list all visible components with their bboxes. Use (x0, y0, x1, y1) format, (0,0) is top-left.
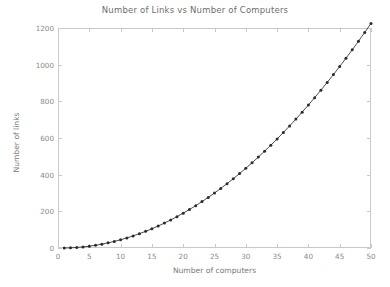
data-point-marker (138, 232, 141, 235)
data-point-marker (344, 57, 347, 60)
x-tick-label: 0 (43, 252, 73, 261)
x-axis-title: Number of computers (58, 266, 371, 275)
data-point-marker (219, 187, 222, 190)
x-tick-label: 50 (356, 252, 386, 261)
data-point-marker (213, 192, 216, 195)
y-tick-label: 1000 (20, 60, 54, 69)
x-tick-label: 30 (231, 252, 261, 261)
data-point-marker (357, 40, 360, 43)
data-point-marker (107, 241, 110, 244)
data-point-marker (132, 234, 135, 237)
y-axis-title: Number of links (12, 83, 21, 203)
data-point-marker (351, 48, 354, 51)
series-plot-area (58, 28, 371, 248)
x-tick-mark (371, 244, 372, 248)
data-point-marker (125, 236, 128, 239)
data-point-marker (370, 22, 373, 25)
data-point-marker (363, 31, 366, 34)
data-point-marker (294, 118, 297, 121)
data-point-marker (88, 245, 91, 248)
y-tick-mark-right (367, 248, 371, 249)
data-point-marker (150, 227, 153, 230)
data-point-marker (169, 218, 172, 221)
x-tick-label: 25 (200, 252, 230, 261)
data-point-marker (263, 150, 266, 153)
y-tick-label: 600 (20, 134, 54, 143)
data-point-marker (200, 200, 203, 203)
y-tick-label: 400 (20, 170, 54, 179)
data-point-marker (157, 225, 160, 228)
x-tick-label: 15 (137, 252, 167, 261)
data-point-marker (163, 222, 166, 225)
chart-title: Number of Links vs Number of Computers (0, 5, 390, 15)
data-point-marker (182, 212, 185, 215)
data-point-marker (144, 230, 147, 233)
data-point-marker (282, 131, 285, 134)
data-point-marker (113, 240, 116, 243)
y-tick-mark (58, 248, 62, 249)
series-line (64, 23, 371, 248)
data-point-marker (194, 204, 197, 207)
data-point-marker (319, 89, 322, 92)
x-tick-label: 20 (168, 252, 198, 261)
data-point-marker (301, 111, 304, 114)
data-point-marker (307, 104, 310, 107)
data-point-marker (207, 196, 210, 199)
data-point-marker (276, 137, 279, 140)
y-axis-tick-labels: 020040060080010001200 (0, 0, 54, 287)
data-point-marker (100, 243, 103, 246)
y-tick-label: 1200 (20, 24, 54, 33)
data-point-marker (226, 182, 229, 185)
data-point-marker (82, 245, 85, 248)
data-point-marker (63, 247, 66, 250)
data-point-marker (75, 246, 78, 249)
x-tick-label: 40 (293, 252, 323, 261)
x-tick-label: 45 (325, 252, 355, 261)
data-point-marker (232, 177, 235, 180)
data-point-marker (175, 215, 178, 218)
x-tick-label: 10 (106, 252, 136, 261)
data-point-marker (238, 172, 241, 175)
y-tick-label: 800 (20, 97, 54, 106)
data-point-marker (288, 124, 291, 127)
data-point-marker (338, 65, 341, 68)
data-point-marker (326, 81, 329, 84)
data-point-marker (244, 167, 247, 170)
data-point-marker (313, 96, 316, 99)
data-point-marker (69, 246, 72, 249)
x-tick-label: 5 (74, 252, 104, 261)
data-point-marker (251, 161, 254, 164)
x-tick-label: 35 (262, 252, 292, 261)
data-point-marker (94, 244, 97, 247)
data-point-marker (188, 208, 191, 211)
x-tick-mark-top (371, 28, 372, 32)
chart-root: Number of Links vs Number of Computers 0… (0, 0, 390, 287)
data-point-marker (269, 144, 272, 147)
data-point-marker (119, 238, 122, 241)
data-point-marker (257, 156, 260, 159)
y-tick-label: 200 (20, 207, 54, 216)
data-point-marker (332, 73, 335, 76)
